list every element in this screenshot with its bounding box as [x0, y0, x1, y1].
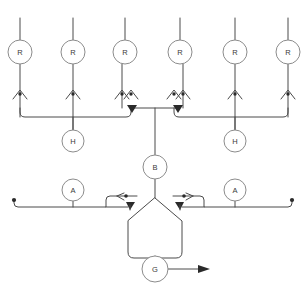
g-output-arrowhead	[198, 265, 210, 273]
node-r-4-label: R	[177, 48, 183, 57]
r-top-stems	[20, 18, 288, 40]
r-bottom-stems	[20, 64, 288, 130]
upward-valve-arrows	[13, 90, 295, 99]
node-circles	[8, 40, 300, 282]
node-g-label: G	[152, 265, 158, 274]
pentagon-inlet-arrowheads	[126, 202, 184, 210]
a-stems	[73, 201, 235, 207]
schematic-svg: R R R R R R H H A A B G	[0, 0, 306, 292]
node-a-left-label: A	[70, 186, 75, 195]
left-upper-bus	[20, 108, 131, 117]
pentagon-inlet-stems	[130, 205, 180, 210]
node-a-right-label: A	[232, 186, 237, 195]
node-r-1-label: R	[17, 48, 23, 57]
valve-arrow-dots	[18, 92, 289, 95]
node-h-left-label: H	[70, 137, 75, 146]
node-r-6-label: R	[285, 48, 291, 57]
central-pentagon-body	[128, 198, 182, 258]
diagram-canvas: R R R R R R H H A A B G	[0, 0, 306, 292]
node-r-3-label: R	[122, 48, 128, 57]
node-b-label: B	[152, 163, 157, 172]
node-r-5-label: R	[232, 48, 238, 57]
node-r-2-label: R	[70, 48, 76, 57]
node-h-right-label: H	[232, 137, 237, 146]
center-upper-feed	[131, 108, 179, 155]
h-stems	[73, 117, 235, 130]
right-upper-bus	[174, 108, 288, 117]
